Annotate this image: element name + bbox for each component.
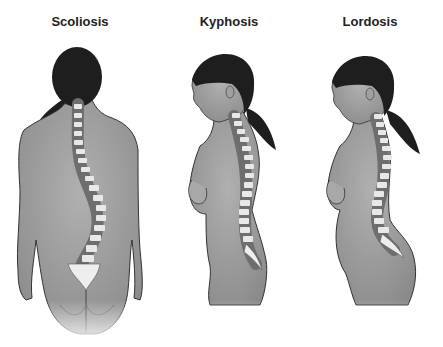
kyphosis-figure: [189, 54, 276, 305]
spine-conditions-illustration: [0, 0, 443, 347]
lordosis-figure: [327, 56, 420, 305]
scoliosis-figure: [17, 47, 142, 334]
